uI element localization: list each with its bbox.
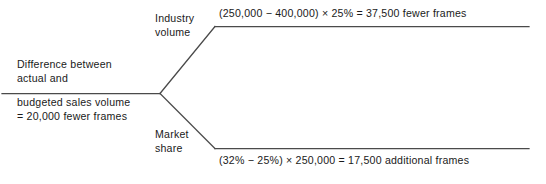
branch-label-market-share: Market share bbox=[155, 128, 189, 155]
root-label-top: Difference between actual and bbox=[17, 58, 112, 85]
branch-formula-market-share: (32% − 25%) × 250,000 = 17,500 additiona… bbox=[219, 154, 469, 168]
variance-tree-diagram: Difference between actual and budgeted s… bbox=[0, 0, 546, 184]
branch-formula-industry-volume: (250,000 − 400,000) × 25% = 37,500 fewer… bbox=[219, 7, 467, 21]
root-label-bottom: budgeted sales volume = 20,000 fewer fra… bbox=[17, 96, 130, 123]
branch-label-industry-volume: Industry volume bbox=[155, 12, 194, 39]
